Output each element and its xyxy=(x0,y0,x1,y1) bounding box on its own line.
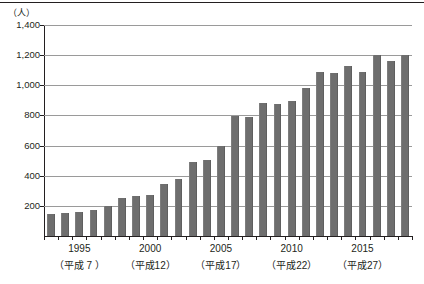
bar xyxy=(245,117,253,236)
bar xyxy=(401,55,409,236)
x-axis-tick-mark xyxy=(398,236,399,240)
gridline xyxy=(44,176,412,177)
y-axis-tick-label: 800 xyxy=(4,110,40,120)
bar xyxy=(104,206,112,236)
bar xyxy=(387,61,395,236)
gridline xyxy=(44,146,412,147)
x-axis-tick-mark xyxy=(44,236,45,240)
x-axis-era-label: （平成22） xyxy=(266,260,317,272)
x-axis-tick-mark xyxy=(171,236,172,240)
x-axis-tick-mark xyxy=(242,236,243,240)
x-axis-tick-mark xyxy=(186,236,187,240)
bar xyxy=(47,214,55,236)
x-axis-tick-mark xyxy=(86,236,87,240)
bar xyxy=(373,55,381,236)
bar xyxy=(175,179,183,236)
x-axis-tick-mark xyxy=(72,236,73,240)
x-axis-tick-mark xyxy=(256,236,257,240)
x-axis-tick-mark xyxy=(214,236,215,240)
bar xyxy=(75,212,83,236)
x-axis-year-label: 2015 xyxy=(351,243,373,255)
bar xyxy=(217,146,225,236)
gridline xyxy=(44,25,412,26)
bar xyxy=(259,103,267,236)
y-axis-tick-label: 1,200 xyxy=(4,50,40,60)
x-axis-era-label: （平成 7 ） xyxy=(54,260,105,272)
gridline xyxy=(44,85,412,86)
bar xyxy=(189,162,197,236)
y-axis-tick-label: 1,000 xyxy=(4,80,40,90)
gridline xyxy=(44,206,412,207)
x-axis-era-label: （平成12） xyxy=(125,260,176,272)
x-axis-tick-mark xyxy=(412,236,413,240)
x-axis-tick-mark xyxy=(115,236,116,240)
bar xyxy=(316,72,324,236)
x-axis-tick-mark xyxy=(200,236,201,240)
x-axis-year-label: 2010 xyxy=(281,243,303,255)
y-axis-tick-label: 1,400 xyxy=(4,20,40,30)
bar xyxy=(90,210,98,236)
x-axis-tick-mark xyxy=(384,236,385,240)
y-axis-tick-label: 400 xyxy=(4,171,40,181)
bar-chart: （人） 1,4001,2001,000800600400200 1995（平成 … xyxy=(0,0,424,284)
plot-area xyxy=(44,25,412,236)
x-axis-tick-mark xyxy=(143,236,144,240)
bar xyxy=(274,104,282,236)
x-axis-tick-mark xyxy=(58,236,59,240)
x-axis-year-label: 2000 xyxy=(139,243,161,255)
x-axis-tick-mark xyxy=(355,236,356,240)
x-axis-era-label: （平成27） xyxy=(337,260,388,272)
bar xyxy=(231,116,239,236)
bar xyxy=(146,195,154,236)
x-axis-year-label: 2005 xyxy=(210,243,232,255)
x-axis-tick-mark xyxy=(270,236,271,240)
x-axis-tick-mark xyxy=(341,236,342,240)
bar xyxy=(344,66,352,236)
y-axis-unit-label: （人） xyxy=(8,8,35,18)
x-axis-tick-mark xyxy=(285,236,286,240)
bar xyxy=(288,101,296,236)
bar xyxy=(61,213,69,236)
top-divider-rule xyxy=(0,2,424,3)
x-axis-tick-mark xyxy=(228,236,229,240)
gridline xyxy=(44,55,412,56)
x-axis-tick-mark xyxy=(299,236,300,240)
bar xyxy=(359,72,367,236)
bar xyxy=(160,184,168,236)
x-axis-tick-mark xyxy=(129,236,130,240)
x-axis-tick-group xyxy=(44,236,412,241)
x-axis-tick-mark xyxy=(313,236,314,240)
bar xyxy=(118,198,126,236)
y-axis-tick-label: 200 xyxy=(4,201,40,211)
x-axis-tick-mark xyxy=(157,236,158,240)
x-axis-year-label: 1995 xyxy=(68,243,90,255)
bar xyxy=(203,160,211,236)
y-axis-tick-label: 600 xyxy=(4,141,40,151)
bar xyxy=(330,73,338,236)
bar xyxy=(132,196,140,236)
y-axis-tick-group: 1,4001,2001,000800600400200 xyxy=(0,25,40,236)
gridline xyxy=(44,115,412,116)
x-axis-era-label: （平成17） xyxy=(195,260,246,272)
x-axis-tick-mark xyxy=(101,236,102,240)
x-axis-tick-mark xyxy=(370,236,371,240)
x-axis-tick-mark xyxy=(327,236,328,240)
bar xyxy=(302,88,310,236)
